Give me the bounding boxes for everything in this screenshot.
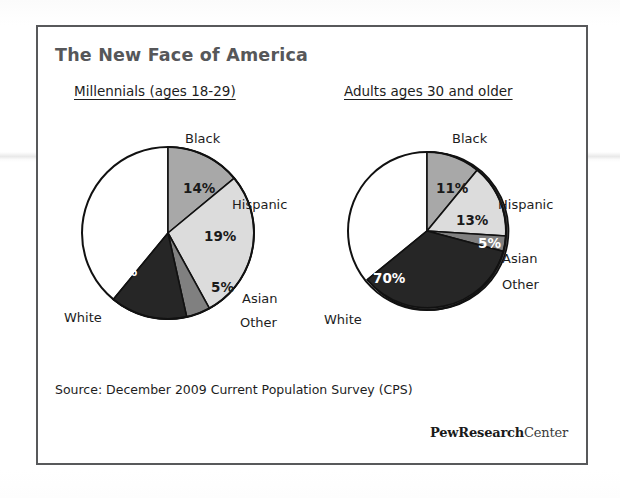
scan-artifact-top: [0, 0, 620, 25]
scan-artifact-bottom: [0, 470, 620, 498]
left-chart-title: Millennials (ages 18-29): [74, 83, 236, 99]
right-label-other: Other: [502, 277, 539, 292]
right-pie-svg: [346, 150, 508, 312]
right-value-hispanic: 13%: [456, 212, 488, 228]
right-label-hispanic: Hispanic: [498, 197, 553, 212]
left-value-asian: 5%: [211, 279, 234, 295]
left-label-other: Other: [240, 315, 277, 330]
right-label-black: Black: [452, 131, 487, 146]
right-pie-chart: 11% 13% 5% 70%: [346, 150, 508, 312]
right-label-white: White: [324, 312, 362, 327]
right-value-black: 11%: [436, 180, 468, 196]
logo-bold-text: PewResearch: [430, 425, 524, 440]
left-value-hispanic: 19%: [204, 228, 236, 244]
figure-panel: The New Face of America Millennials (age…: [36, 25, 588, 465]
right-chart-title: Adults ages 30 and older: [344, 83, 513, 99]
source-note: Source: December 2009 Current Population…: [55, 382, 413, 397]
page-title: The New Face of America: [55, 45, 308, 65]
logo-light-text: Center: [524, 425, 568, 440]
pew-research-center-logo: PewResearchCenter: [430, 425, 568, 440]
left-pie-chart: 14% 19% 5% 61%: [80, 145, 256, 321]
right-label-asian: Asian: [502, 251, 537, 266]
left-label-black: Black: [185, 131, 220, 146]
left-label-asian: Asian: [242, 291, 277, 306]
left-value-black: 14%: [183, 180, 215, 196]
right-value-white: 70%: [373, 270, 405, 286]
left-value-white: 61%: [105, 263, 137, 279]
right-value-asian: 5%: [478, 235, 501, 251]
left-label-hispanic: Hispanic: [232, 197, 287, 212]
left-label-white: White: [64, 310, 102, 325]
